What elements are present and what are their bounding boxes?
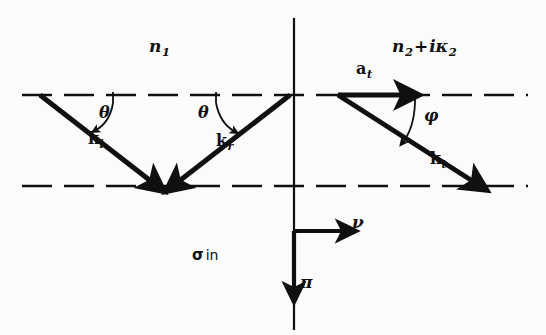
polarization-note: σin [192,247,218,263]
polarization-sigma-symbol: σ [192,246,204,264]
polarization-note-word: in [204,247,219,263]
transmitted-amplitude-label: at [356,61,372,80]
transmitted-ray-symbol: k [430,149,441,168]
transmitted-ray-label: kt [430,151,447,170]
transmitting-medium-label: n2+iκ2 [392,38,457,58]
pi-axis-symbol: π [300,272,312,292]
refraction-angle-symbol: φ [424,106,438,125]
reflection-angle-label: θ [198,105,209,121]
reflection-angle-arc [216,103,234,131]
transmitted-ray-subscript: t [441,158,447,171]
diagram-canvas [0,0,546,335]
incident-medium-label: n1 [149,38,170,58]
transmitting-medium-kappa-symbol: κ [436,36,449,56]
nu-axis-label: ν [352,214,364,231]
reflection-angle-symbol: θ [198,103,209,122]
reflected-ray-label: kr [216,133,233,152]
transmitting-medium-operator: + [413,36,429,56]
incident-medium-symbol: n [149,36,161,56]
nu-axis-symbol: ν [352,212,364,232]
transmitting-medium-n-subscript: 2 [404,45,413,59]
refraction-angle-label: φ [424,108,438,124]
incidence-angle-label: θ [99,105,110,121]
pi-axis-label: π [300,274,312,291]
transmitting-medium-kappa-subscript: 2 [448,45,457,59]
incident-ray-label: ki [88,131,104,150]
optics-ray-diagram: n1 n2+iκ2 ki kr kt at θ θ φ σin ν π [0,0,546,335]
transmitting-medium-n-symbol: n [392,36,404,56]
reflected-ray-arrow [178,95,290,182]
reflected-ray-symbol: k [216,131,227,150]
transmitted-amplitude-subscript: t [366,68,372,81]
transmitted-amplitude-symbol: a [356,59,366,78]
incident-medium-subscript: 1 [161,45,170,59]
reflected-ray-subscript: r [227,140,233,153]
incidence-angle-symbol: θ [99,103,110,122]
incident-ray-subscript: i [99,138,104,151]
incident-ray-symbol: k [88,129,99,148]
